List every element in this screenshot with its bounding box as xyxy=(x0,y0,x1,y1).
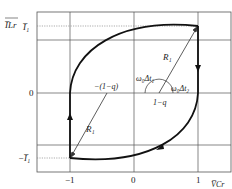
y-tick-neg-I1: −I̅₁ xyxy=(18,153,30,163)
radius-upper-label: R₁ xyxy=(162,52,172,62)
radius-lower-label: R₁ xyxy=(85,124,95,134)
y-axis-title: I̅Lr xyxy=(4,20,17,30)
x-axis-title: V̅Cr xyxy=(211,180,225,189)
angle-1-label: ω₀Δt₁ xyxy=(136,74,154,83)
x-tick-0: 0 xyxy=(131,175,136,185)
arrow-down-icon xyxy=(195,65,201,72)
state-plane-diagram: I̅Lr I̅₁ 0 −I̅₁ −1 0 1 V̅Cr R₁ R₁ 1−q −(… xyxy=(0,0,232,189)
x-tick-neg1: −1 xyxy=(65,175,75,185)
y-tick-I1: I̅₁ xyxy=(22,22,29,32)
grid-lines xyxy=(37,12,231,172)
center-lower-label: −(1−q) xyxy=(94,82,118,91)
angle-2-label: ω₀Δt₂ xyxy=(171,84,189,93)
y-tick-0: 0 xyxy=(29,88,34,98)
y-axis-title-text: I̅Lr xyxy=(4,20,17,30)
arrow-up-icon xyxy=(67,113,73,120)
center-upper-label: 1−q xyxy=(153,98,166,107)
x-tick-1: 1 xyxy=(196,175,201,185)
